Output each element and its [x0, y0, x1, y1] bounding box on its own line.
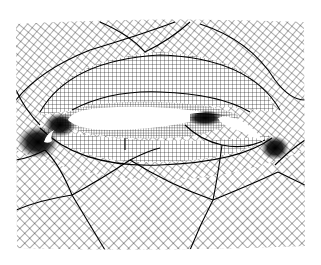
mesh-diagram — [0, 0, 321, 265]
mesh-region — [0, 0, 321, 265]
